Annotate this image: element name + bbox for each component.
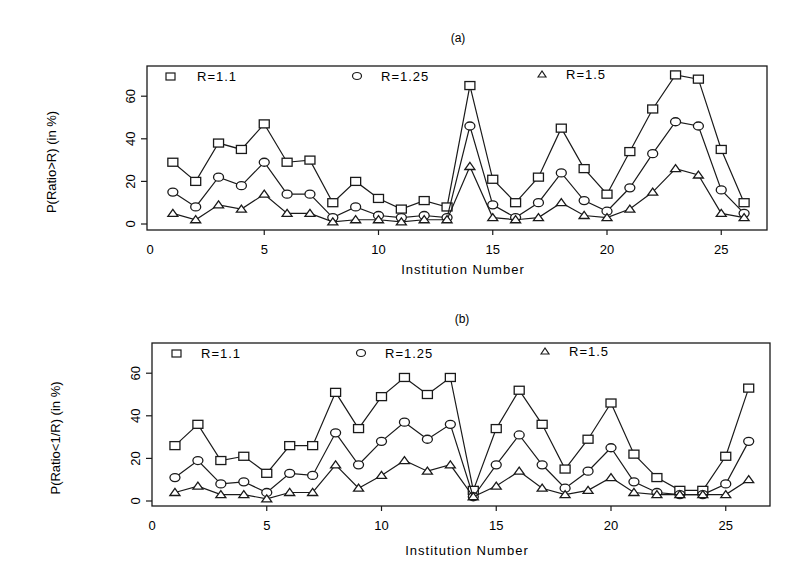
x-tick-label: 25	[714, 242, 728, 257]
square-marker-icon	[419, 197, 429, 205]
square-marker-icon	[305, 156, 315, 164]
triangle-marker-icon	[538, 71, 546, 77]
square-marker-icon	[465, 82, 475, 90]
y-tick-label: 20	[123, 174, 138, 188]
x-tick-label: 15	[489, 518, 503, 533]
circle-marker-icon	[721, 480, 731, 488]
legend-label-r1-1: R=1.1	[197, 69, 237, 84]
legend-label-r1-25: R=1.25	[385, 346, 433, 361]
triangle-marker-icon	[445, 461, 455, 468]
square-marker-icon	[193, 420, 203, 428]
circle-marker-icon	[170, 474, 180, 482]
circle-marker-icon	[168, 188, 178, 196]
x-axis-a: 0510152025	[146, 230, 728, 257]
triangle-marker-icon	[606, 474, 616, 481]
square-marker-icon	[625, 148, 635, 156]
triangle-marker-icon	[331, 461, 341, 468]
square-marker-icon	[721, 452, 731, 460]
circle-marker-icon	[353, 73, 362, 80]
series-line-circle	[173, 122, 744, 218]
triangle-marker-icon	[541, 348, 549, 354]
circle-marker-icon	[491, 461, 501, 469]
circle-marker-icon	[305, 190, 315, 198]
circle-marker-icon	[583, 467, 593, 475]
square-marker-icon	[560, 465, 570, 473]
y-tick-label: 0	[123, 220, 138, 227]
square-marker-icon	[308, 442, 318, 450]
square-marker-icon	[168, 158, 178, 166]
square-marker-icon	[533, 173, 543, 181]
circle-marker-icon	[354, 461, 364, 469]
triangle-marker-icon	[514, 467, 524, 474]
legend-label-r1-25: R=1.25	[381, 69, 429, 84]
square-marker-icon	[629, 450, 639, 458]
square-marker-icon	[716, 145, 726, 153]
figure: (a) 0204060 0510152025 P(Ratio>R) (in %)…	[0, 0, 811, 582]
y-axis-a: 0204060	[123, 89, 147, 228]
square-marker-icon	[399, 373, 409, 381]
triangle-marker-icon	[579, 211, 589, 218]
circle-marker-icon	[445, 420, 455, 428]
x-tick-label: 15	[486, 242, 500, 257]
square-marker-icon	[259, 120, 269, 128]
square-marker-icon	[331, 388, 341, 396]
y-tick-label: 60	[123, 89, 138, 103]
circle-marker-icon	[399, 418, 409, 426]
series-group-a	[168, 71, 749, 225]
series-line-square	[175, 377, 749, 490]
triangle-marker-icon	[716, 209, 726, 216]
y-tick-label: 60	[128, 366, 143, 380]
square-marker-icon	[606, 399, 616, 407]
square-marker-icon	[166, 73, 175, 80]
circle-marker-icon	[671, 118, 681, 126]
series-line-square	[173, 75, 744, 209]
circle-marker-icon	[533, 199, 543, 207]
y-tick-label: 0	[128, 497, 143, 504]
square-marker-icon	[328, 199, 338, 207]
circle-marker-icon	[556, 169, 566, 177]
x-tick-label: 20	[604, 518, 618, 533]
square-marker-icon	[214, 139, 224, 147]
square-marker-icon	[172, 350, 181, 357]
circle-marker-icon	[331, 429, 341, 437]
circle-marker-icon	[465, 122, 475, 130]
x-tick-label: 10	[374, 518, 388, 533]
square-marker-icon	[216, 457, 226, 465]
x-tick-label: 5	[263, 518, 270, 533]
y-tick-label: 40	[128, 409, 143, 423]
series-group-b	[170, 373, 754, 501]
x-axis-b: 0510152025	[148, 506, 733, 533]
square-marker-icon	[282, 158, 292, 166]
square-marker-icon	[239, 452, 249, 460]
square-marker-icon	[262, 469, 272, 477]
circle-marker-icon	[422, 435, 432, 443]
circle-marker-icon	[629, 478, 639, 486]
circle-marker-icon	[606, 444, 616, 452]
chart-panel-a: (a) 0204060 0510152025 P(Ratio>R) (in %)…	[44, 31, 767, 277]
circle-marker-icon	[693, 122, 703, 130]
x-axis-label-a: Institution Number	[401, 262, 525, 277]
circle-marker-icon	[744, 437, 754, 445]
x-tick-label: 0	[148, 518, 155, 533]
x-tick-label: 10	[371, 242, 385, 257]
panel-title-b: (b)	[455, 312, 470, 326]
x-tick-label: 5	[261, 242, 268, 257]
legend-label-r1-1: R=1.1	[201, 346, 241, 361]
triangle-marker-icon	[556, 199, 566, 206]
square-marker-icon	[744, 384, 754, 392]
circle-marker-icon	[648, 150, 658, 158]
triangle-marker-icon	[214, 201, 224, 208]
square-marker-icon	[396, 205, 406, 213]
triangle-marker-icon	[259, 190, 269, 197]
triangle-marker-icon	[583, 486, 593, 493]
circle-marker-icon	[537, 461, 547, 469]
circle-marker-icon	[285, 469, 295, 477]
square-marker-icon	[514, 386, 524, 394]
x-tick-label: 0	[146, 242, 153, 257]
triangle-marker-icon	[465, 162, 475, 169]
triangle-marker-icon	[399, 457, 409, 464]
legend-b: R=1.1 R=1.25 R=1.5	[172, 344, 609, 361]
x-tick-label: 25	[719, 518, 733, 533]
square-marker-icon	[488, 175, 498, 183]
circle-marker-icon	[216, 480, 226, 488]
